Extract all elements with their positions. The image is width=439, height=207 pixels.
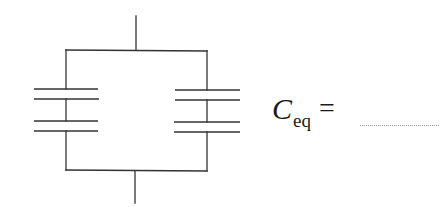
top-wire bbox=[66, 50, 207, 51]
capacitor-circuit-diagram bbox=[0, 0, 439, 207]
capacitor-left-lower bbox=[34, 121, 98, 131]
equals-sign: = bbox=[319, 92, 335, 123]
capacitance-symbol: C bbox=[272, 92, 292, 125]
capacitor-left-upper bbox=[34, 89, 99, 99]
capacitor-right-lower bbox=[174, 122, 240, 132]
capacitor-right-upper bbox=[175, 90, 240, 100]
answer-blank[interactable] bbox=[360, 125, 439, 126]
capacitance-subscript: eq bbox=[293, 110, 311, 131]
left-branch bbox=[34, 50, 99, 170]
equivalent-capacitance-equation: Ceq= bbox=[272, 92, 335, 126]
bottom-wire bbox=[66, 170, 207, 171]
right-branch bbox=[174, 51, 240, 171]
